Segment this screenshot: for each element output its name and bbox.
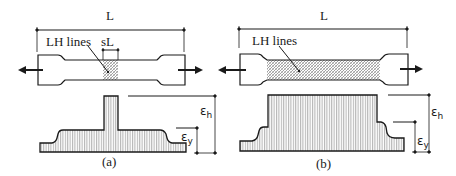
- hatched-gauge-b: [267, 60, 380, 80]
- segment-label-a: sL: [101, 35, 114, 48]
- hatch-label-a: LH lines: [46, 35, 91, 48]
- caption-b: (b): [316, 157, 331, 170]
- strain-high-label-a: εh: [200, 105, 212, 117]
- load-arrow-right-b: [400, 65, 423, 73]
- hatch-label-b: LH lines: [252, 34, 297, 47]
- strain-profile-b: [240, 95, 404, 151]
- figure-canvas: [0, 0, 456, 176]
- segment-dimension-a: [102, 48, 119, 60]
- strain-yield-label-b: εy: [417, 135, 429, 147]
- load-arrow-right-a: [178, 66, 203, 74]
- strain-high-label-b: εh: [431, 106, 443, 118]
- strain-yield-label-a: εy: [181, 131, 193, 143]
- length-label-a: L: [106, 9, 114, 22]
- panel-b: [218, 26, 431, 153]
- caption-a: (a): [102, 155, 116, 168]
- strain-profile-a: [40, 96, 186, 152]
- specimen-a: [38, 46, 185, 85]
- hatched-segment-a: [103, 60, 118, 80]
- length-label-b: L: [320, 9, 328, 22]
- load-arrow-left-b: [218, 66, 246, 74]
- load-arrow-left-a: [18, 66, 43, 74]
- specimen-b: [240, 46, 408, 85]
